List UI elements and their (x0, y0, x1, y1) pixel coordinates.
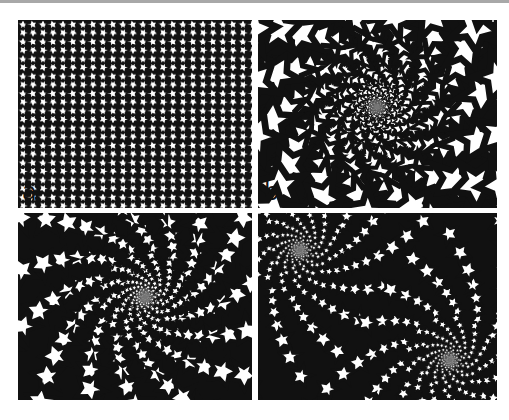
panel-c: c (18, 213, 252, 400)
panel-a: a (18, 20, 252, 208)
panel-b: b (258, 20, 497, 208)
spiral-tiling-image-c (18, 213, 252, 400)
panel-label-a: a (22, 180, 37, 204)
uniform-tiling-image (18, 20, 252, 208)
panel-d: d (258, 213, 497, 400)
speck (492, 20, 494, 22)
spiral-tiling-image-b (258, 20, 497, 208)
top-border (0, 0, 509, 3)
panel-label-b: b (264, 180, 279, 204)
panel-label-d: d (266, 371, 281, 395)
panel-label-c: c (23, 371, 36, 395)
double-spiral-tiling-image-d (258, 213, 497, 400)
